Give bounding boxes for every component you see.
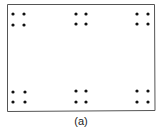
dot xyxy=(135,12,138,15)
dot-group-bottom-left xyxy=(11,90,26,103)
dot xyxy=(74,12,77,15)
dot-group-top-left xyxy=(11,12,25,26)
dot xyxy=(22,23,25,26)
dot xyxy=(135,89,138,92)
dot xyxy=(146,100,149,103)
dot xyxy=(74,22,77,25)
dot xyxy=(22,12,25,15)
dot xyxy=(84,22,87,25)
dot xyxy=(74,89,77,92)
dot-groups xyxy=(11,12,149,103)
dot xyxy=(11,12,14,15)
dot-group-top-center xyxy=(74,12,87,25)
figure-caption: (a) xyxy=(0,115,162,127)
dot xyxy=(135,22,138,25)
dot-group-bottom-center xyxy=(74,89,87,103)
dot-group-top-right xyxy=(135,12,149,25)
dot xyxy=(11,100,14,103)
dot xyxy=(74,100,77,103)
dot xyxy=(23,100,26,103)
dot xyxy=(84,89,87,92)
dot xyxy=(146,89,149,92)
dot xyxy=(146,12,149,15)
dot-group-bottom-right xyxy=(135,89,149,103)
dot xyxy=(11,23,14,26)
dot xyxy=(84,100,87,103)
dot xyxy=(135,100,138,103)
dot xyxy=(146,22,149,25)
dot xyxy=(11,90,14,93)
dot xyxy=(23,90,26,93)
dot xyxy=(84,12,87,15)
rectangle-frame xyxy=(8,5,156,112)
